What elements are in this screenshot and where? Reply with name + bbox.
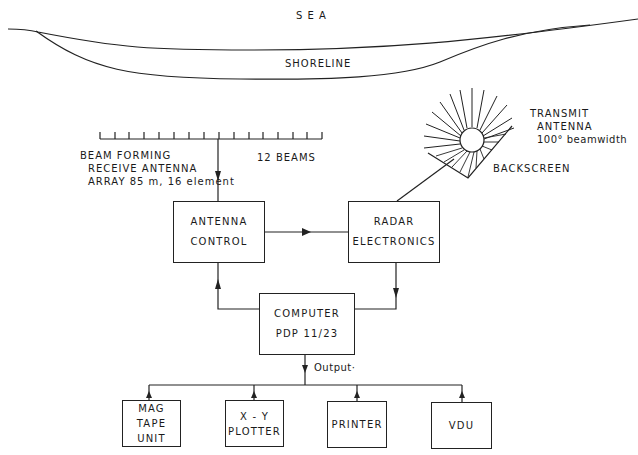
vdu-label: VDU: [449, 418, 474, 433]
transmit-antenna-label-line3: 100° beamwidth: [537, 134, 627, 145]
xy-plotter-label-line1: X - Y: [240, 409, 269, 424]
receive-antenna-array: [100, 132, 322, 139]
shoreline-curve: [36, 25, 590, 79]
transmit-antenna-label-line2: ANTENNA: [537, 121, 593, 132]
antenna-control-label-line2: CONTROL: [190, 232, 247, 252]
receive-antenna-label-line1: BEAM FORMING: [80, 150, 171, 161]
receive-antenna-label-line2: RECEIVE ANTENNA: [88, 163, 197, 174]
mag-tape-label-line3: UNIT: [137, 431, 166, 446]
vdu-box: VDU: [431, 402, 492, 449]
radar-electronics-box: RADAR ELECTRONICS: [348, 201, 440, 263]
xy-plotter-label-line2: PLOTTER: [228, 424, 281, 439]
xy-plotter-box: X - Y PLOTTER: [225, 400, 284, 447]
transmit-antenna-label-line1: TRANSMIT: [530, 108, 589, 119]
printer-label: PRINTER: [331, 417, 382, 432]
radar-electronics-label-line1: RADAR: [374, 212, 415, 232]
mag-tape-label-line2: TAPE: [137, 416, 166, 431]
computer-label-line2: PDP 11/23: [276, 324, 339, 344]
computer-box: COMPUTER PDP 11/23: [259, 293, 355, 355]
radar-electronics-label-line2: ELECTRONICS: [352, 232, 435, 252]
backscreen-label: BACKSCREEN: [493, 163, 570, 174]
shoreline-label: SHORELINE: [285, 58, 351, 69]
antenna-control-box: ANTENNA CONTROL: [173, 201, 265, 263]
beams-label: 12 BEAMS: [257, 152, 316, 163]
receive-antenna-label-line3: ARRAY 85 m, 16 element: [88, 176, 235, 187]
sea-boundary-line: [8, 19, 638, 50]
printer-box: PRINTER: [327, 401, 387, 448]
output-label: Output·: [314, 362, 355, 373]
antenna-control-label-line1: ANTENNA: [191, 212, 248, 232]
sea-label: S E A: [296, 10, 327, 21]
mag-tape-unit-box: MAG TAPE UNIT: [122, 400, 181, 447]
mag-tape-label-line1: MAG: [138, 401, 165, 416]
computer-label-line1: COMPUTER: [274, 304, 340, 324]
